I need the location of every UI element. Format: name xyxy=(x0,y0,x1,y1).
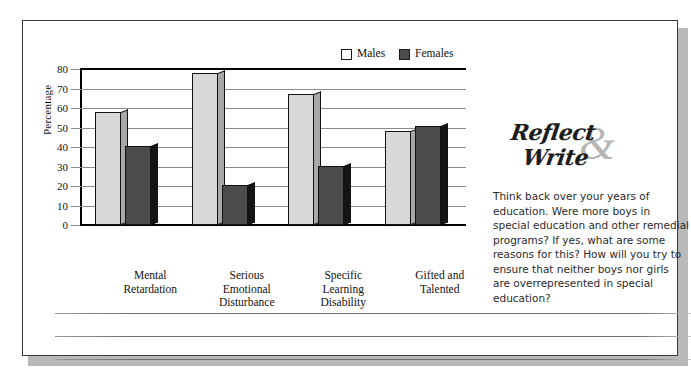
y-tick-70 xyxy=(71,89,80,90)
y-tick-label-30: 30 xyxy=(57,161,68,172)
legend-label-males: Males xyxy=(357,48,385,60)
y-tick-label-70: 70 xyxy=(57,83,68,94)
legend-label-females: Females xyxy=(415,48,453,60)
x-category-label: Gifted andTalented xyxy=(392,269,489,296)
x-category-line: Learning xyxy=(295,283,392,297)
y-tick-label-20: 20 xyxy=(57,181,68,192)
chart-plot-area: 80706050403020100 xyxy=(80,69,466,225)
y-tick-label-10: 10 xyxy=(57,200,68,211)
bar-front-face xyxy=(385,131,411,225)
activity-box-frame: Males Females Percentage 807060504030201… xyxy=(22,20,678,356)
reflection-prompt-text: Think back over your years of education.… xyxy=(493,189,689,305)
writing-line[interactable] xyxy=(55,336,691,337)
bar-chart: Percentage 80706050403020100 MentalRetar… xyxy=(45,61,485,301)
y-tick-0 xyxy=(71,225,80,226)
bar-group xyxy=(370,69,467,225)
legend-swatch-males xyxy=(341,49,352,60)
logo-word-reflect: Reflect xyxy=(509,119,597,145)
bar-front-face xyxy=(415,126,441,225)
bar-group xyxy=(177,69,274,225)
bar-females-4 xyxy=(415,126,441,225)
legend-swatch-females xyxy=(399,49,410,60)
bar-front-face xyxy=(95,112,121,225)
legend-item-females: Females xyxy=(399,48,453,60)
writing-lines xyxy=(55,313,691,371)
bar-side-face xyxy=(441,123,448,225)
x-category-line: Specific xyxy=(295,269,392,283)
bar-side-face xyxy=(151,143,158,225)
bar-group xyxy=(80,69,177,225)
bar-front-face xyxy=(222,185,248,225)
y-tick-60 xyxy=(71,108,80,109)
bar-females-2 xyxy=(222,185,248,225)
y-tick-label-0: 0 xyxy=(63,220,69,231)
x-category-label: SeriousEmotionalDisturbance xyxy=(199,269,296,310)
x-category-line: Disturbance xyxy=(199,296,296,310)
y-tick-30 xyxy=(71,167,80,168)
bar-females-3 xyxy=(318,166,344,225)
x-category-line: Gifted and xyxy=(392,269,489,283)
bar-front-face xyxy=(192,73,218,225)
bar-front-face xyxy=(318,166,344,225)
bar-side-face xyxy=(248,182,255,225)
legend-item-males: Males xyxy=(341,48,385,60)
bar-males-3 xyxy=(288,94,314,225)
y-tick-label-40: 40 xyxy=(57,142,68,153)
x-category-line: Serious xyxy=(199,269,296,283)
bar-females-1 xyxy=(125,146,151,225)
y-tick-20 xyxy=(71,186,80,187)
bar-side-face xyxy=(344,163,351,225)
x-category-line: Mental xyxy=(102,269,199,283)
bar-group xyxy=(273,69,370,225)
y-tick-50 xyxy=(71,128,80,129)
y-axis-title: Percentage xyxy=(41,85,53,135)
bar-front-face xyxy=(125,146,151,225)
y-tick-label-80: 80 xyxy=(57,64,68,75)
y-tick-40 xyxy=(71,147,80,148)
logo-word-write: Write xyxy=(521,144,590,170)
bar-males-2 xyxy=(192,73,218,225)
y-tick-label-60: 60 xyxy=(57,103,68,114)
y-tick-label-50: 50 xyxy=(57,122,68,133)
bar-front-face xyxy=(288,94,314,225)
x-category-label: SpecificLearningDisability xyxy=(295,269,392,310)
y-tick-80 xyxy=(71,69,80,70)
bar-males-4 xyxy=(385,131,411,225)
writing-line[interactable] xyxy=(55,313,691,314)
y-tick-10 xyxy=(71,206,80,207)
x-category-line: Disability xyxy=(295,296,392,310)
x-category-line: Talented xyxy=(392,283,489,297)
x-category-line: Emotional xyxy=(199,283,296,297)
writing-line[interactable] xyxy=(55,359,691,360)
reflect-write-panel: & Reflect Write Think back over your yea… xyxy=(493,117,689,305)
bar-males-1 xyxy=(95,112,121,225)
reflect-write-logo: & Reflect Write xyxy=(493,117,689,179)
x-category-label: MentalRetardation xyxy=(102,269,199,296)
x-category-line: Retardation xyxy=(102,283,199,297)
